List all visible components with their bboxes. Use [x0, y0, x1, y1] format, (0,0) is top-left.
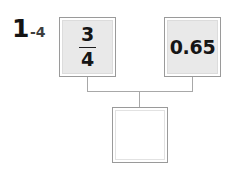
- exercise-sub-number: -4: [30, 25, 46, 39]
- worksheet-diagram: 1 -4 3 4 0.65: [0, 0, 231, 170]
- decimal-value: 0.65: [170, 36, 216, 58]
- fraction-box-inner: 3 4: [62, 20, 113, 74]
- answer-value[interactable]: [116, 111, 164, 159]
- fraction-box: 3 4: [59, 17, 116, 77]
- decimal-box-inner: 0.65: [167, 20, 218, 74]
- fraction-numerator: 3: [81, 25, 94, 45]
- exercise-number: 1: [12, 16, 29, 41]
- answer-box-inner[interactable]: [115, 110, 165, 160]
- decimal-box: 0.65: [164, 17, 221, 77]
- exercise-label: 1 -4: [12, 16, 45, 41]
- fraction-denominator: 4: [81, 49, 94, 69]
- answer-box[interactable]: [112, 107, 168, 163]
- fraction-value: 3 4: [79, 25, 96, 69]
